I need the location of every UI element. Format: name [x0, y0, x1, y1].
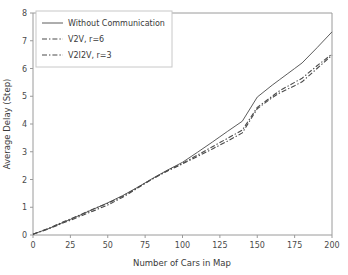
- x-tick-label: 25: [65, 241, 75, 250]
- x-tick-label: 200: [324, 241, 339, 250]
- x-tick-label: 175: [287, 241, 302, 250]
- y-tick-label: 5: [22, 92, 27, 101]
- x-tick-label: 0: [30, 241, 35, 250]
- legend-label-1: Without Communication: [68, 19, 165, 28]
- legend-label-2: V2V, r=6: [68, 35, 104, 44]
- y-tick-label: 1: [22, 203, 27, 212]
- legend-label-3: V2I2V, r=3: [68, 51, 112, 60]
- x-tick-label: 150: [250, 241, 265, 250]
- y-tick-label: 8: [22, 9, 27, 18]
- y-tick-label: 2: [22, 176, 27, 185]
- y-tick-label: 3: [22, 148, 27, 157]
- line-chart-canvas: 012345678 0255075100125150175200 Average…: [0, 0, 348, 275]
- y-tick-label: 7: [22, 37, 27, 46]
- x-tick-label: 50: [103, 241, 113, 250]
- x-axis-label: Number of Cars in Map: [133, 258, 231, 268]
- y-axis-label: Average Delay (Step): [2, 79, 12, 170]
- y-tick-label: 4: [22, 120, 27, 129]
- y-tick-label: 6: [22, 65, 27, 74]
- x-tick-label: 100: [175, 241, 190, 250]
- y-tick-label: 0: [22, 231, 27, 240]
- x-tick-label: 75: [140, 241, 150, 250]
- x-tick-label: 125: [212, 241, 227, 250]
- chart-legend: Without CommunicationV2V, r=6V2I2V, r=3: [36, 11, 172, 67]
- chart-figure: 012345678 0255075100125150175200 Average…: [0, 0, 348, 275]
